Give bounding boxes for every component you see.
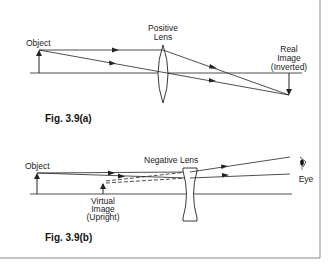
optics-diagram: Object Positive Lens Real Image (Inverte… [0,0,336,266]
positive-lens [158,45,168,103]
ray-arrowhead [112,48,119,53]
lens-label-a-2: Lens [154,32,172,42]
negative-lens [183,168,197,221]
image-label-a-3: (Inverted) [271,62,308,72]
ray-b-out-1 [190,157,290,172]
ray-arrowhead [209,64,217,69]
figure-caption-b: Fig. 3.9(b) [45,232,92,243]
image-label-b-3: (Upright) [86,212,119,222]
object-label-a: Object [26,38,51,48]
object-label-b: Object [25,161,50,171]
figure-caption-a: Fig. 3.9(a) [45,113,92,124]
eye-icon [300,157,306,170]
ray-arrowhead [109,61,116,66]
eye-label: Eye [299,174,314,184]
virtual-ray-2 [106,178,187,183]
ray-arrowhead [108,171,115,176]
figure-a: Object Positive Lens Real Image (Inverte… [26,23,307,124]
figure-b: Object Negative Lens Virtual Image (Upri… [25,155,314,243]
lens-label-b: Negative Lens [144,155,198,165]
ray-b-out-2 [190,174,290,178]
